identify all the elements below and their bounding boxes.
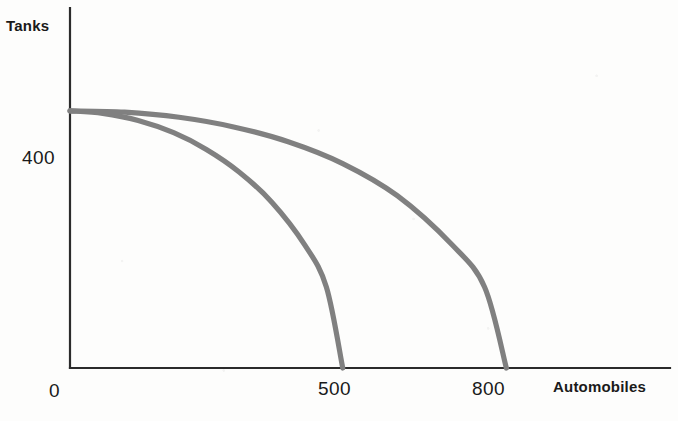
- x-tick-label-0: 0: [49, 381, 60, 400]
- x-tick-label-500: 500: [318, 379, 351, 398]
- ppf-chart: Tanks Automobiles 400 0 500 800: [0, 0, 678, 421]
- plot-area: [0, 0, 678, 421]
- ppf-curve-outer: [70, 111, 506, 368]
- ppf-curve-inner: [70, 111, 343, 368]
- x-axis-title: Automobiles: [553, 379, 646, 394]
- y-axis-title: Tanks: [6, 18, 49, 33]
- y-tick-label-400: 400: [22, 148, 55, 167]
- x-tick-label-800: 800: [472, 379, 505, 398]
